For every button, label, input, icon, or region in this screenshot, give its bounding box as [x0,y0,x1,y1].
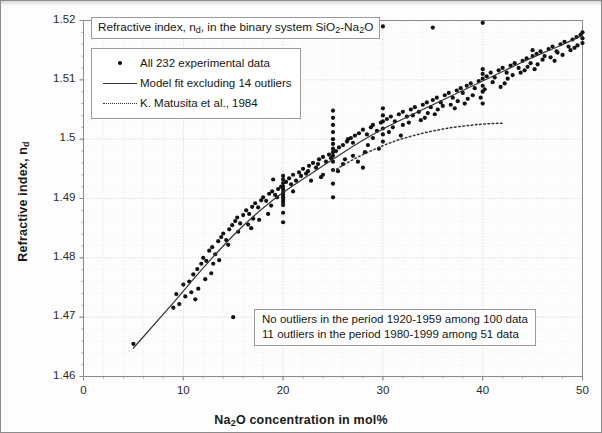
data-point [473,86,477,90]
data-point [270,189,274,193]
series-line [333,123,503,171]
x-axis-title-tail: O concentration in mol% [236,413,388,427]
data-point [331,116,335,120]
data-point [436,107,440,111]
outlier-note-line-1: No outliers in the period 1920-1959 amon… [262,312,528,327]
y-tick-label: 1.46 [32,369,76,381]
data-point [311,161,315,165]
data-point [317,157,321,161]
data-point [391,125,395,129]
data-point [183,294,187,298]
data-point [201,256,205,260]
legend-label: K. Matusita et al., 1984 [140,97,258,109]
data-point [221,231,225,235]
data-point [431,98,435,102]
data-point [203,277,207,281]
data-point [331,137,335,141]
data-point [361,166,365,170]
data-point [171,306,175,310]
data-point [481,21,485,25]
data-point [230,223,234,227]
data-point [413,105,417,109]
data-point [337,145,341,149]
data-point [381,139,385,143]
data-point [505,71,509,75]
data-point [281,174,285,178]
data-point [207,249,211,253]
data-point [526,65,530,69]
data-point [566,45,570,49]
chart-figure: Refractive index, nd, in the binary syst… [0,0,602,433]
x-tick-label: 10 [163,384,203,396]
data-point [174,292,178,296]
data-point [199,262,203,266]
data-point [210,245,214,249]
x-tick-label: 30 [363,384,403,396]
data-point [331,195,335,199]
data-point [353,134,357,138]
data-point [331,130,335,134]
data-point [485,74,489,78]
data-point [421,103,425,107]
data-point [334,149,338,153]
data-point [261,195,265,199]
y-axis-title-sub: d [21,141,31,147]
data-point [381,119,385,123]
legend-label: Model fit excluding 14 outliers [140,77,292,89]
y-tick-label: 1.52 [32,13,76,25]
data-point [177,302,181,306]
data-point [497,68,501,72]
data-point [531,48,535,52]
data-point [247,212,251,216]
data-point [542,54,546,58]
data-point [331,142,335,146]
data-point [423,116,427,120]
data-point [191,272,195,276]
data-point [284,180,288,184]
data-point [447,91,451,95]
data-point [463,101,467,105]
data-point [309,179,313,183]
data-point [580,36,584,40]
data-point [238,221,242,225]
data-point [433,112,437,116]
data-point [299,174,303,178]
data-point [361,128,365,132]
data-point [517,66,521,70]
data-point [301,167,305,171]
data-point [297,170,301,174]
data-point [244,208,248,212]
data-point [481,101,485,105]
data-point [219,235,223,239]
data-point [351,154,355,158]
chart-title-mid2: -Na [340,20,359,34]
chart-title-tail: O [364,20,373,34]
chart-title-text: Refractive index, n [98,20,196,34]
data-point [181,282,185,286]
data-point [371,136,375,140]
data-point [256,205,260,209]
data-point [401,123,405,127]
data-point [381,132,385,136]
data-point [401,110,405,114]
data-point [397,112,401,116]
data-point [249,226,253,230]
y-tick-label: 1.51 [32,72,76,84]
data-point [331,123,335,127]
y-axis-title: Refractive index, nd [16,92,31,312]
data-point [387,130,391,134]
data-point [257,218,261,222]
data-point [371,123,375,127]
data-point [193,297,197,301]
data-point [356,160,360,164]
data-point [389,115,393,119]
x-tick-label: 0 [64,384,104,396]
legend-item-matusita: K. Matusita et al., 1984 [100,93,292,113]
data-point [343,157,347,161]
data-point [327,152,331,156]
data-point [216,239,220,243]
data-point [316,162,320,166]
data-point [501,66,505,70]
data-point [506,77,510,81]
data-point [357,131,361,135]
